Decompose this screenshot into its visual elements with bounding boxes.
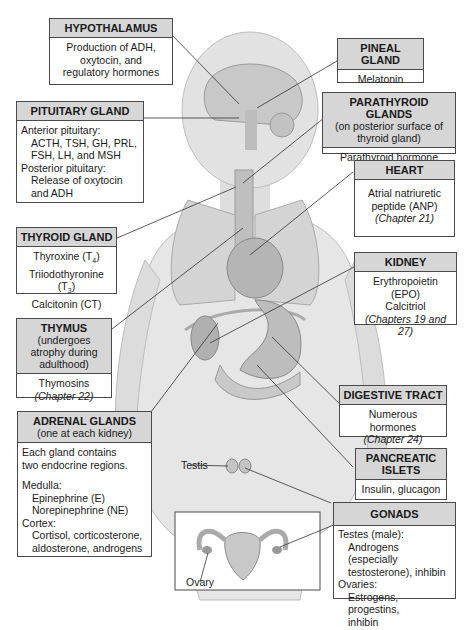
text-line: FSH, LH, and MSH [21,149,139,162]
parathyroid-subtitle: (on posterior surface of thyroid gland) [325,120,453,144]
parathyroid-box: PARATHYROID GLANDS(on posterior surface … [322,92,456,154]
text-line: Thyroxine (T4) [21,250,112,268]
text-line: Release of oxytocin [21,174,139,187]
pineal-box: PINEAL GLAND Melatonin [337,38,424,83]
thymus-title: THYMUS [41,322,87,334]
pituitary-title: PITUITARY GLAND [17,102,143,121]
text-line: Norepinephrine (NE) [22,504,147,517]
heart-box: HEART Atrial natriuretic peptide (ANP) (… [354,160,455,237]
text-line: aldosterone, androgens [22,542,147,555]
chapter-ref: (Chapter 22) [21,390,107,403]
text-line: Numerous hormones [344,408,442,433]
text-line: Erythropoietin (EPO) [359,275,452,300]
parathyroid-title: PARATHYROID GLANDS [349,96,428,120]
thymus-box: THYMUS(undergoes atrophy during adulthoo… [16,318,112,398]
text-line: Cortisol, corticosterone, [22,529,147,542]
text-line: testosterone), inhibin [338,566,451,579]
text-line: regulatory hormones [54,66,168,79]
chapter-ref: (Chapter 24) [344,433,442,446]
kidney-title: KIDNEY [355,253,456,272]
text-line: Calcitonin (CT) [21,298,112,311]
text-line: Melatonin [342,73,419,86]
text-line: and ADH [21,187,139,200]
digestive-tract-title: DIGESTIVE TRACT [340,386,446,405]
gonads-box: GONADS Testes (male): Androgens (especia… [333,502,456,599]
text-line: Calcitriol [359,300,452,313]
text-line: Production of ADH, [54,41,168,54]
adrenal-box: ADRENAL GLANDS(one at each kidney) Each … [17,411,152,557]
pineal-title: PINEAL GLAND [338,39,423,70]
thyroid-box: THYROID GLAND Thyroxine (T4) Triiodothyr… [16,227,117,294]
pituitary-box: PITUITARY GLAND Anterior pituitary: ACTH… [16,101,144,203]
text-line: Androgens (especially [338,541,451,566]
text-line: peptide (ANP) [359,200,450,213]
pancreatic-islets-title: PANCREATIC ISLETS [356,449,446,480]
text-line: Estrogens, progestins, [338,591,451,616]
digestive-tract-box: DIGESTIVE TRACT Numerous hormones (Chapt… [339,385,447,437]
text-line: Testes (male): [338,528,451,541]
adrenal-subtitle: (one at each kidney) [20,427,149,439]
text-line: ACTH, TSH, GH, PRL, [21,137,139,150]
text-line: Ovaries: [338,578,451,591]
gonads-title: GONADS [334,503,455,526]
pancreatic-islets-box: PANCREATIC ISLETS Insulin, glucagon [355,448,447,500]
testis-label: Testis [181,459,208,471]
text-line: Thymosins [21,377,107,390]
text-line: Cortex: [22,517,147,530]
kidney-box: KIDNEY Erythropoietin (EPO) Calcitriol (… [354,252,457,325]
hypothalamus-title: HYPOTHALAMUS [50,19,172,38]
heart-title: HEART [355,161,454,180]
adrenal-title: ADRENAL GLANDS [33,415,136,427]
text-line: Medulla: [22,479,147,492]
text-line: two endocrine regions. [22,459,147,472]
text-line: Epinephrine (E) [22,492,147,505]
chapter-ref: (Chapters 19 and 27) [359,313,452,338]
text-line: Atrial natriuretic [359,187,450,200]
text-line: Posterior pituitary: [21,162,139,175]
text-line: Anterior pituitary: [21,124,139,137]
text-line: oxytocin, and [54,54,168,67]
thymus-subtitle: (undergoes atrophy during adulthood) [19,334,109,370]
text-line: Each gland contains [22,446,147,459]
text-line: Insulin, glucagon [360,483,442,496]
text-line: inhibin [338,616,451,629]
thyroid-title: THYROID GLAND [17,228,116,247]
chapter-ref: (Chapter 21) [359,212,450,225]
text-line: Triiodothyronine (T3) [21,268,112,298]
ovary-label: Ovary [186,576,214,588]
hypothalamus-box: HYPOTHALAMUS Production of ADH, oxytocin… [49,18,173,85]
